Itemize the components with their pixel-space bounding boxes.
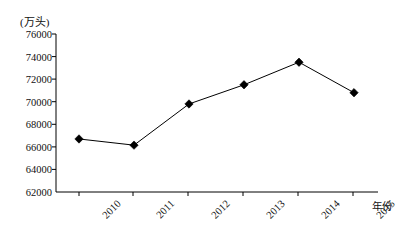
x-axis-title: 年份 xyxy=(372,198,392,213)
data-point-marker xyxy=(240,81,248,89)
data-point-marker xyxy=(130,141,138,149)
data-point-marker xyxy=(295,58,303,66)
plot-area xyxy=(0,0,402,238)
data-point-marker xyxy=(185,100,193,108)
data-series-line xyxy=(79,62,354,145)
data-point-marker xyxy=(350,88,358,96)
y-axis-ticks xyxy=(52,34,56,169)
data-point-marker xyxy=(75,135,83,143)
line-chart: (万头) 76000 74000 72000 70000 68000 66000… xyxy=(0,0,402,238)
x-axis-ticks xyxy=(79,192,353,196)
